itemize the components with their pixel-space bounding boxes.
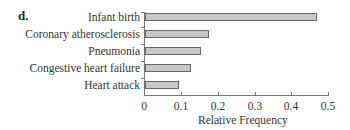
- x-tick-label: 0.5: [321, 100, 335, 112]
- y-tick: [141, 78, 144, 79]
- category-label: Heart attack: [84, 78, 140, 92]
- x-tick-label: 0.2: [211, 100, 225, 112]
- category-label: Pneumonia: [88, 44, 140, 58]
- y-tick: [141, 61, 144, 62]
- bar: [145, 81, 179, 89]
- x-tick: [144, 92, 145, 96]
- category-label: Coronary atherosclerosis: [25, 27, 140, 41]
- category-label: Congestive heart failure: [30, 61, 141, 75]
- x-tick-label: 0.3: [248, 100, 262, 112]
- panel-label: d.: [18, 8, 28, 24]
- y-tick: [141, 44, 144, 45]
- x-tick-label: 0.4: [284, 100, 298, 112]
- y-tick: [141, 27, 144, 28]
- y-tick: [141, 12, 144, 13]
- category-label: Infant birth: [88, 10, 140, 24]
- x-tick: [218, 92, 219, 96]
- x-axis-title: Relative Frequency: [198, 114, 288, 126]
- x-tick: [291, 92, 292, 96]
- bar: [145, 64, 191, 72]
- x-tick: [181, 92, 182, 96]
- x-tick: [255, 92, 256, 96]
- bar: [145, 13, 317, 21]
- y-axis: [144, 12, 145, 96]
- bar: [145, 30, 209, 38]
- bar: [145, 47, 201, 55]
- x-axis: [144, 95, 328, 96]
- x-tick-label: 0.1: [174, 100, 188, 112]
- x-tick: [328, 92, 329, 96]
- x-tick-label: 0: [141, 100, 147, 112]
